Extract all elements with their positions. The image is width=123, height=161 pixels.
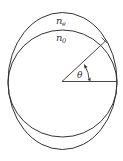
- label-n0-sub: 0: [62, 37, 66, 45]
- diagram-canvas: n e n 0 θ: [0, 0, 123, 161]
- index-ellipsoid-diagram: n e n 0 θ: [0, 0, 123, 161]
- label-theta: θ: [77, 70, 83, 80]
- arrowhead-up-icon: [84, 64, 88, 69]
- angled-radius-line: [62, 41, 106, 82]
- label-ne-sub: e: [62, 20, 66, 28]
